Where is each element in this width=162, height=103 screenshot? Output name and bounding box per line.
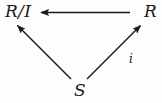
arrow-s-to-quotient [18,26,72,80]
commutative-diagram-figure: R/I R S i [0,0,162,103]
node-label-subring: S [74,82,86,99]
node-label-ring: R [144,3,157,20]
edge-label-inclusion-map: i [129,53,133,65]
node-label-quotient-ring: R/I [5,3,31,20]
